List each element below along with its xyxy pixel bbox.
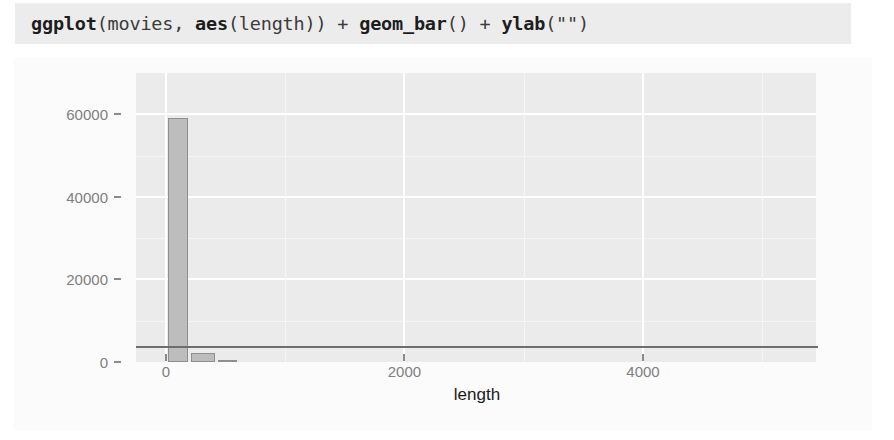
gridline-x-major-2 [642, 73, 644, 362]
ggplot-figure: 0200004000060000 020004000 length [14, 58, 872, 430]
gridline-x-minor-1 [524, 73, 525, 362]
y-tick-mark [114, 361, 121, 363]
y-tick-mark [114, 113, 121, 115]
x-axis-title: length [136, 385, 818, 405]
x-tick-mark [642, 354, 644, 361]
gridline-x-minor-0 [285, 73, 286, 362]
gridline-y-major-2 [136, 196, 816, 198]
gridline-x-major-0 [165, 73, 167, 362]
y-tick-label: 20000 [66, 271, 108, 288]
gridline-y-minor-1 [136, 238, 816, 239]
x-tick-label: 0 [162, 363, 170, 380]
y-tick-mark [114, 278, 121, 280]
y-tick-mark [114, 196, 121, 198]
gridline-x-major-1 [403, 73, 405, 362]
gridline-x-minor-2 [762, 73, 763, 362]
code-segment-7: ("") [545, 13, 589, 34]
y-axis: 0200004000060000 [14, 58, 122, 430]
plot-panel [136, 73, 816, 362]
bar [168, 118, 188, 362]
code-segment-5: () + [447, 13, 502, 34]
x-tick-mark [165, 354, 167, 361]
gridline-y-major-3 [136, 113, 816, 115]
gridline-y-minor-2 [136, 156, 816, 157]
y-tick-label: 60000 [66, 106, 108, 123]
code-segment-0: ggplot [31, 13, 97, 34]
code-segment-4: geom_bar [359, 13, 447, 34]
gridline-y-major-1 [136, 278, 816, 280]
code-segment-3: (length)) + [228, 13, 359, 34]
code-text: ggplot(movies, aes(length)) + geom_bar()… [31, 13, 589, 34]
code-segment-6: ylab [501, 13, 545, 34]
y-tick-label: 0 [100, 354, 108, 371]
code-segment-2: aes [195, 13, 228, 34]
x-tick-label: 2000 [388, 363, 421, 380]
x-tick-mark [403, 354, 405, 361]
y-tick-label: 40000 [66, 188, 108, 205]
x-tick-label: 4000 [626, 363, 659, 380]
gridline-y-minor-0 [136, 321, 816, 322]
code-segment-1: (movies, [97, 13, 195, 34]
code-block: ggplot(movies, aes(length)) + geom_bar()… [15, 3, 851, 44]
